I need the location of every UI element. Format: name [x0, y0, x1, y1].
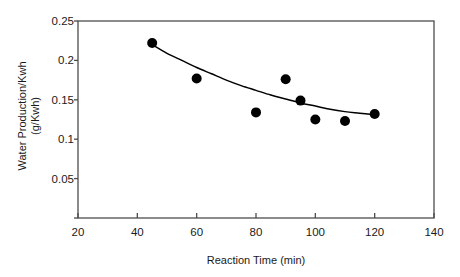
data-point: [296, 96, 306, 106]
trend-curve: [152, 45, 375, 115]
data-point: [251, 107, 261, 117]
data-point: [192, 74, 202, 84]
data-markers: [147, 38, 380, 126]
data-point: [281, 74, 291, 84]
chart-figure: Water Production/Kwh (g/Kwh) 0.050.10.15…: [0, 0, 460, 277]
data-point: [370, 109, 380, 119]
plot-area: [0, 0, 460, 277]
axis-frame: [78, 21, 434, 218]
data-point: [310, 115, 320, 125]
tick-marks: [74, 21, 434, 218]
data-point: [147, 38, 157, 48]
data-point: [340, 116, 350, 126]
